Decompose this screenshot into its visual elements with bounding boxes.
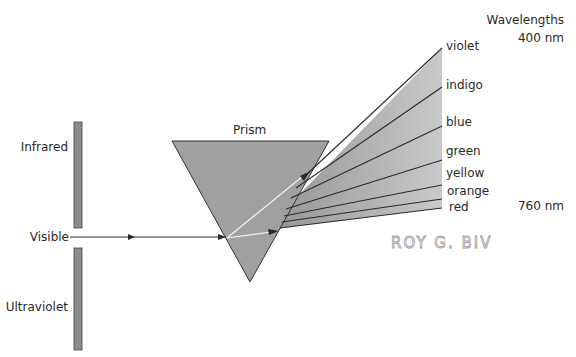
color-label-red: red (449, 200, 469, 214)
infrared-block-bar (74, 122, 82, 228)
color-label-green: green (446, 144, 481, 158)
roygbiv-annotation: ROY G. BIV (391, 234, 492, 252)
ultraviolet-block-bar (74, 248, 82, 350)
color-label-orange: orange (447, 184, 489, 198)
prism-label: Prism (233, 123, 266, 137)
color-label-violet: violet (446, 39, 479, 53)
color-label-indigo: indigo (446, 78, 483, 92)
prism-diagram: Prism Infrared Visible Ultraviolet Wavel… (0, 0, 576, 357)
infrared-label: Infrared (21, 140, 68, 154)
color-label-blue: blue (446, 115, 472, 129)
color-label-yellow: yellow (446, 166, 484, 180)
wavelengths-header: Wavelengths (487, 13, 564, 27)
visible-label: Visible (30, 230, 69, 244)
ultraviolet-label: Ultraviolet (6, 300, 69, 314)
wavelength-bottom: 760 nm (518, 199, 564, 213)
arrow-icon (128, 234, 135, 240)
wavelength-top: 400 nm (518, 31, 564, 45)
